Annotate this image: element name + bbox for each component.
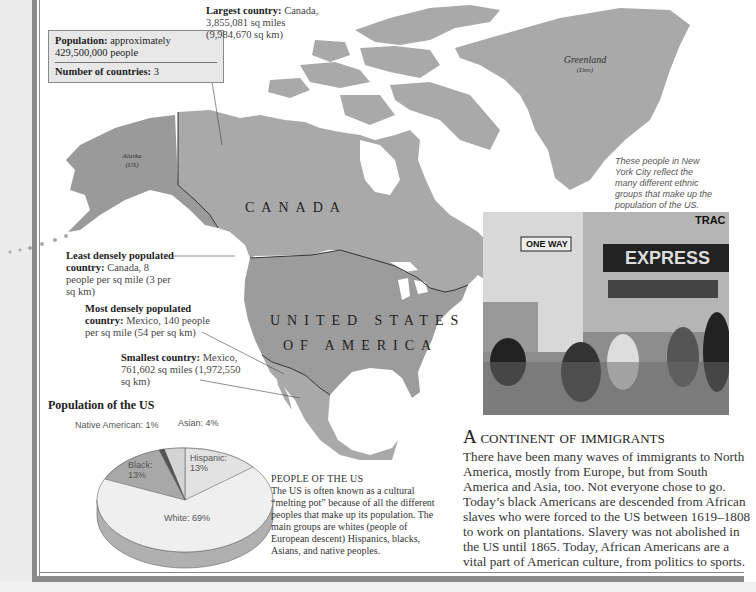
page-border-left xyxy=(32,0,37,582)
annotation-smallest: Smallest country: Mexico, 761,602 sq mil… xyxy=(121,352,241,388)
pie-label-black: Black: 13% xyxy=(128,460,160,480)
people-of-us-body: The US is often known as a cultural “mel… xyxy=(271,485,441,557)
countries-label: Number of countries: xyxy=(55,66,151,77)
page-border-bottom-inner xyxy=(39,572,744,573)
sign-trac: TRAC xyxy=(695,214,726,226)
annotation-least-dense: Least densely populated country: Canada,… xyxy=(66,250,176,298)
photo-caption: These people in New York City reflect th… xyxy=(615,156,715,211)
pie-label-native-american: Native American: 1% xyxy=(75,420,159,430)
label-alaska: Alaska (US) xyxy=(112,152,152,170)
sign-express: EXPRESS xyxy=(625,248,710,269)
page-border-left-inner xyxy=(39,0,40,578)
population-pie-chart xyxy=(95,430,275,572)
pie-label-white: White: 69% xyxy=(164,513,210,523)
new-york-street-photo: ONE WAY EXPRESS TRAC xyxy=(483,212,729,415)
immigrants-section: A continent of immigrants There have bee… xyxy=(463,427,753,569)
label-canada: CANADA xyxy=(245,200,347,216)
fact-box: Population: approximately 429,500,000 pe… xyxy=(48,30,224,83)
countries-value: 3 xyxy=(154,66,159,77)
annotation-most-dense: Most densely populated country: Mexico, … xyxy=(85,303,210,339)
people-of-us-section: PEOPLE OF THE US The US is often known a… xyxy=(271,473,441,557)
annotation-largest: Largest country: Canada, 3,855,081 sq mi… xyxy=(206,5,326,41)
immigrants-heading: A continent of immigrants xyxy=(463,427,753,447)
pie-label-asian: Asian: 4% xyxy=(178,418,219,428)
immigrants-body: There have been many waves of immigrants… xyxy=(463,449,753,569)
page-bottom-margin xyxy=(0,582,756,592)
label-usa-line1: UNITED STATES xyxy=(270,313,465,329)
pie-chart-title: Population of the US xyxy=(48,398,154,413)
pie-label-hispanic: Hispanic: 13% xyxy=(190,453,230,473)
label-usa-line2: OF AMERICA xyxy=(283,338,438,354)
people-of-us-heading: PEOPLE OF THE US xyxy=(271,473,441,485)
sign-one-way: ONE WAY xyxy=(526,239,568,249)
label-greenland: Greenland (Den) xyxy=(550,55,620,75)
population-label: Population: xyxy=(55,35,108,46)
